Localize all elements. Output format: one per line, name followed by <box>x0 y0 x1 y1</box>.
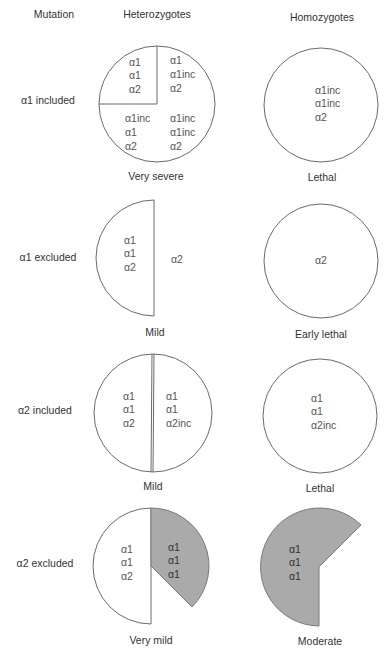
row-label: α2 included <box>18 404 72 416</box>
shaded-wedge-labels: α1 α1 α1 <box>168 541 180 580</box>
genotype-line: α1 <box>129 69 141 81</box>
genotype-line: α2 <box>170 140 182 152</box>
genotype-line: α1inc <box>125 112 150 124</box>
genotype-line: α1 <box>124 247 136 259</box>
homozygote-phenotype: Early lethal <box>295 328 347 340</box>
genotype-line: α1 <box>166 390 178 402</box>
genotype-line: α2inc <box>166 417 191 429</box>
genotype-line: α1 <box>124 234 136 246</box>
homozygote-phenotype: Lethal <box>308 171 337 183</box>
shaded-wedge-shape <box>151 508 209 607</box>
homozygote-diagram: α1inc α1inc α2 <box>264 48 378 162</box>
genotype-line: α1 <box>166 403 178 415</box>
genotype-line: α1 <box>123 390 135 402</box>
homozygote-phenotype: Moderate <box>298 635 343 647</box>
genotype-line: α1inc <box>170 112 195 124</box>
heterozygote-diagram: α1 α1 α2 α1 α1 α2inc <box>94 354 212 472</box>
genotype-line: α1 <box>311 392 323 404</box>
genotype-line: α2 <box>121 570 133 582</box>
row-label: α2 excluded <box>17 557 74 569</box>
sector-upper-left: α1 α1 α2 <box>129 56 141 95</box>
genotype-line: α1 <box>168 541 180 553</box>
genotype-line: α2 <box>170 82 182 94</box>
row-label: α1 included <box>21 94 75 106</box>
homozygote-diagram: α1 α1 α2inc <box>263 359 377 473</box>
genotype-line: α1 <box>168 568 180 580</box>
genotype-line: α1 <box>289 556 301 568</box>
genotype-line: α1 <box>170 54 182 66</box>
row-alpha2-included: α2 included α1 α1 α2 α1 α1 α2inc Mild α1… <box>18 354 377 494</box>
genotype-line: α2 <box>315 254 327 266</box>
heterozygote-phenotype: Very mild <box>129 634 172 646</box>
heterozygote-diagram: α1 α1 α2 α1 α1inc α2 α1inc α1 α2 α1inc α… <box>99 46 215 162</box>
genotype-line: α2 <box>129 83 141 95</box>
header-homozygotes: Homozygotes <box>290 11 354 23</box>
genotype-line: α1 <box>125 126 137 138</box>
row-alpha1-excluded: α1 excluded α1 α1 α2 α2 Mild α2 Early le… <box>20 200 378 340</box>
genotype-line: α1 <box>311 405 323 417</box>
genotype-line: α2inc <box>311 419 336 431</box>
heterozygote-diagram: α1 α1 α2 α1 α1 α1 <box>93 508 209 624</box>
heterozygote-phenotype: Mild <box>145 326 164 338</box>
header-mutation: Mutation <box>34 8 74 20</box>
genotype-line: α2 <box>125 140 137 152</box>
left-half: α1 α1 α2 <box>123 390 135 429</box>
genotype-line: α1inc <box>170 68 195 80</box>
genotype-line: α1 <box>289 543 301 555</box>
homozygote-diagram: α2 <box>264 204 378 318</box>
homozygote-phenotype: Lethal <box>306 482 335 494</box>
outside-genotype-label: α2 <box>171 253 183 265</box>
genotype-line: α1inc <box>315 84 340 96</box>
shaded-sector-shape <box>261 508 361 626</box>
genotype-line: α1 <box>123 403 135 415</box>
genotype-line: α1 <box>168 554 180 566</box>
genotype-line: α1 <box>289 570 301 582</box>
row-alpha1-included: α1 included α1 α1 α2 α1 α1inc α2 α1inc α… <box>21 46 378 183</box>
genotype-line: α1inc <box>170 126 195 138</box>
row-alpha2-excluded: α2 excluded α1 α1 α2 α1 α1 α1 Very mild … <box>17 508 361 647</box>
heterozygote-diagram: α1 α1 α2 α2 <box>96 200 183 316</box>
header-heterozygotes: Heterozygotes <box>123 8 191 20</box>
white-half-labels: α1 α1 α2 <box>121 543 133 582</box>
genotype-line: α1 <box>121 556 133 568</box>
genotype-line: α1 <box>129 56 141 68</box>
genotype-line: α2 <box>315 111 327 123</box>
genotype-line: α2 <box>123 417 135 429</box>
row-label: α1 excluded <box>20 251 77 263</box>
homozygote-diagram: α1 α1 α1 <box>261 508 361 626</box>
genotype-line: α2 <box>124 261 136 273</box>
heterozygote-phenotype: Very severe <box>128 170 184 182</box>
splicing-mutation-diagram: Mutation Heterozygotes Homozygotes α1 in… <box>0 0 388 655</box>
genotype-line: α1 <box>121 543 133 555</box>
genotype-line: α1inc <box>315 97 340 109</box>
heterozygote-phenotype: Mild <box>143 480 162 492</box>
